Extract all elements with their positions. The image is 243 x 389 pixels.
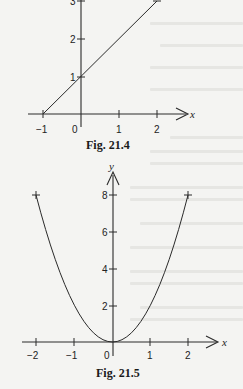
fig2-x-axis-label: x — [221, 336, 227, 348]
fig1-ytick-3: 3 — [70, 0, 76, 7]
fig2-ytick-6: 6 — [102, 227, 108, 238]
fig2-xtick-0: 0 — [104, 350, 110, 361]
fig2-xtick-neg2: −2 — [27, 350, 39, 361]
line-y-equals-x-plus-1 — [43, 1, 157, 114]
fig2-ytick-4: 4 — [102, 264, 108, 275]
fig1-xtick-1: 1 — [116, 124, 122, 135]
fig2-xtick-neg1: −1 — [66, 350, 78, 361]
fig1-caption: Fig. 21.4 — [86, 138, 130, 152]
fig2-xtick-2: 2 — [185, 350, 191, 361]
fig2-ytick-8: 8 — [102, 190, 108, 201]
fig1-ytick-2: 2 — [70, 34, 76, 45]
fig2-y-axis-label: y — [108, 160, 114, 172]
fig2-ytick-2: 2 — [102, 301, 108, 312]
fig1-xtick-neg1: −1 — [36, 124, 48, 135]
fig1-ytick-1: 1 — [70, 72, 76, 83]
fig1-xtick-2: 2 — [154, 124, 160, 135]
figures-canvas: −1 0 1 2 1 2 3 x Fig. 21.4 y 8 6 4 2 −2 … — [0, 0, 243, 389]
fig-21-5 — [22, 172, 218, 356]
fig1-xtick-0: 0 — [72, 124, 78, 135]
fig2-caption: Fig. 21.5 — [96, 366, 140, 380]
fig2-xtick-1: 1 — [147, 350, 153, 361]
fig-21-4 — [28, 0, 188, 127]
fig1-x-axis-label: x — [189, 108, 195, 120]
